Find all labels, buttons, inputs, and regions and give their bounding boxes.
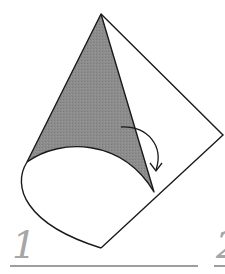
step-underline-2 [214,265,225,267]
step-number-2: 2 [216,226,225,264]
step-number-1: 1 [12,226,36,264]
step-underline-1 [10,265,198,267]
cone-shaded-surface [27,14,154,192]
